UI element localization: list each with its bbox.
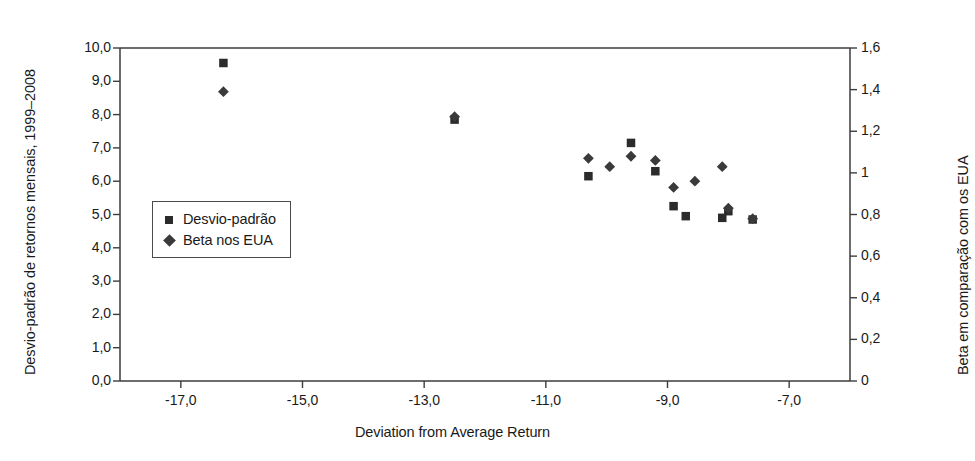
legend-label: Desvio-padrão bbox=[183, 211, 276, 227]
legend-item-desvio-padrao: Desvio-padrão bbox=[162, 208, 276, 229]
data-point-diamond bbox=[583, 153, 594, 164]
data-points-layer bbox=[218, 59, 758, 224]
data-point-diamond bbox=[717, 161, 728, 172]
data-point-diamond bbox=[604, 161, 615, 172]
data-point-square bbox=[584, 172, 593, 181]
data-point-square bbox=[651, 167, 660, 176]
data-point-diamond bbox=[668, 182, 679, 193]
data-point-diamond bbox=[218, 86, 229, 97]
data-point-square bbox=[682, 212, 691, 221]
data-point-square bbox=[627, 139, 636, 148]
data-point-diamond bbox=[689, 176, 700, 187]
data-point-diamond bbox=[650, 155, 661, 166]
square-marker-icon bbox=[162, 212, 176, 226]
plot-area bbox=[0, 0, 975, 461]
data-point-square bbox=[219, 59, 228, 68]
data-point-diamond bbox=[626, 151, 637, 162]
chart-figure: Desvio-padrão de retornos mensais, 1999–… bbox=[0, 0, 975, 461]
chart-legend: Desvio-padrão Beta nos EUA bbox=[152, 201, 291, 258]
data-point-square bbox=[669, 202, 678, 211]
legend-label: Beta nos EUA bbox=[183, 232, 273, 248]
diamond-marker-icon bbox=[162, 233, 176, 247]
legend-item-beta-nos-eua: Beta nos EUA bbox=[162, 229, 276, 250]
